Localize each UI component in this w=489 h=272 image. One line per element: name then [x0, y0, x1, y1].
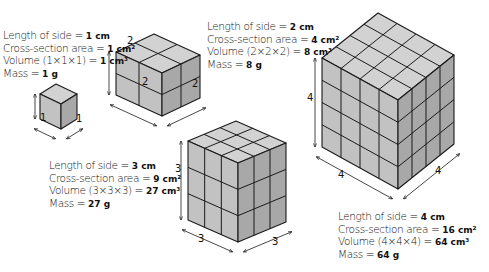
- mass-label: Mass =: [207, 58, 246, 70]
- volume-value: 8 cm³: [304, 47, 332, 57]
- area-label: Cross-section area =: [3, 42, 107, 54]
- mass-value: 64 g: [377, 250, 399, 260]
- cube-4-left-dim: 4: [338, 169, 344, 180]
- mass-value: 8 g: [246, 60, 262, 70]
- cube-2-left-dim: 2: [142, 76, 148, 87]
- mass-value: 27 g: [88, 199, 110, 209]
- area-label: Cross-section area =: [49, 172, 153, 184]
- area-value: 16 cm²: [442, 225, 476, 235]
- length-value: 2 cm: [290, 22, 314, 32]
- area-label: Cross-section area =: [338, 223, 442, 235]
- mass-value: 1 g: [42, 69, 58, 79]
- cube-4-height-dim: 4: [307, 92, 313, 103]
- volume-label: Volume (4×4×4) =: [338, 235, 435, 247]
- cube-4-drawing: [322, 13, 454, 189]
- area-value: 4 cm²: [311, 35, 339, 45]
- length-value: 1 cm: [86, 31, 110, 41]
- area-value: 9 cm²: [153, 174, 181, 184]
- volume-value: 27 cm³: [146, 186, 180, 196]
- cube-4-label: Length of side = 4 cm Cross-section area…: [338, 211, 477, 261]
- mass-label: Mass =: [49, 197, 88, 209]
- length-label: Length of side =: [3, 29, 86, 41]
- cube-3-right-dim: 3: [272, 236, 278, 247]
- cube-2-right-dim: 2: [192, 78, 198, 89]
- mass-label: Mass =: [3, 67, 42, 79]
- length-label: Length of side =: [49, 159, 132, 171]
- length-value: 3 cm: [132, 161, 156, 171]
- volume-value: 64 cm³: [435, 237, 469, 247]
- volume-label: Volume (1×1×1) =: [3, 54, 100, 66]
- cube-3-label: Length of side = 3 cm Cross-section area…: [49, 160, 181, 210]
- length-label: Length of side =: [338, 210, 421, 222]
- area-label: Cross-section area =: [207, 33, 311, 45]
- cube-4-right-dim: 4: [435, 165, 441, 176]
- cube-2-label: Length of side = 2 cm Cross-section area…: [207, 21, 339, 71]
- cube-3-height-dim: 3: [175, 163, 181, 174]
- length-label: Length of side =: [207, 20, 290, 32]
- cube-1-label: Length of side = 1 cm Cross-section area…: [3, 30, 135, 80]
- volume-label: Volume (3×3×3) =: [49, 184, 146, 196]
- cube-1-right-dim: 1: [76, 113, 82, 124]
- mass-label: Mass =: [338, 248, 377, 260]
- cube-1-left-dim: 1: [40, 112, 46, 123]
- volume-value: 1 cm³: [100, 56, 128, 66]
- cube-3-drawing: [188, 121, 286, 242]
- cube-1-left-dimension-line: [34, 129, 55, 139]
- cube-1-right-dimension-line: [67, 129, 83, 139]
- volume-label: Volume (2×2×2) =: [207, 45, 304, 57]
- cube-2-height-dim: 2: [127, 35, 133, 46]
- cube-3-left-dim: 3: [198, 233, 204, 244]
- length-value: 4 cm: [421, 212, 445, 222]
